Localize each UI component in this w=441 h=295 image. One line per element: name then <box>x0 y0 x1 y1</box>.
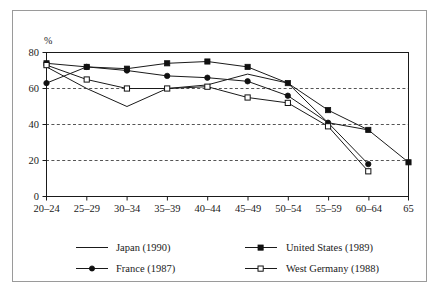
legend-entry-japan[interactable]: Japan (1990) <box>76 242 171 254</box>
data-point-west-germany-1988-3 <box>165 86 170 91</box>
legend-marker-open-square <box>258 266 263 271</box>
data-point-west-germany-1988-2 <box>124 86 129 91</box>
legend-label-west-germany: West Germany (1988) <box>286 263 380 275</box>
data-point-west-germany-1988-4 <box>205 84 210 89</box>
legend-label-united-states: United States (1989) <box>286 242 373 254</box>
data-point-united-states-1989-3 <box>165 61 170 66</box>
data-point-france-1987-4 <box>205 75 210 80</box>
data-point-west-germany-1988-8 <box>366 169 371 174</box>
legend-entry-france[interactable]: France (1987) <box>76 263 176 275</box>
data-point-united-states-1989-7 <box>325 108 330 113</box>
series-layer <box>44 59 411 174</box>
data-point-france-1987-5 <box>245 79 250 84</box>
y-axis-unit-label: % <box>44 35 52 46</box>
data-point-france-1987-0 <box>44 80 49 85</box>
y-tick-label-0: 0 <box>34 191 39 202</box>
legend-marker-filled-circle <box>89 266 94 271</box>
data-point-west-germany-1988-0 <box>44 63 49 68</box>
series-line-west-germany-1988 <box>47 65 369 171</box>
x-axis: 20–24 25–29 30–34 35–39 40–44 45–49 50–5… <box>33 197 413 215</box>
legend-entry-west-germany[interactable]: West Germany (1988) <box>245 263 380 275</box>
x-tick-label-6: 50–54 <box>275 203 302 214</box>
y-tick-label-20: 20 <box>29 155 40 166</box>
data-point-united-states-1989-9 <box>406 160 411 165</box>
legend-entry-united-states[interactable]: United States (1989) <box>245 242 373 254</box>
figure-container: % 80 60 40 20 0 20–24 25–29 30–34 35–39 … <box>0 0 441 295</box>
data-point-united-states-1989-5 <box>245 64 250 69</box>
data-point-west-germany-1988-5 <box>245 95 250 100</box>
legend-label-france: France (1987) <box>116 263 176 275</box>
data-point-united-states-1989-1 <box>84 64 89 69</box>
data-point-france-1987-6 <box>285 93 290 98</box>
data-point-united-states-1989-2 <box>124 66 129 71</box>
data-point-west-germany-1988-6 <box>285 100 290 105</box>
x-tick-label-5: 45–49 <box>235 203 261 214</box>
series-united-states-1989 <box>44 59 411 165</box>
y-tick-label-40: 40 <box>29 119 40 130</box>
data-point-united-states-1989-4 <box>205 59 210 64</box>
x-tick-label-8: 60–64 <box>356 203 383 214</box>
x-tick-label-9: 65 <box>403 203 414 214</box>
data-point-france-1987-3 <box>164 73 169 78</box>
legend-label-japan: Japan (1990) <box>116 242 171 254</box>
x-tick-label-4: 40–44 <box>195 203 222 214</box>
data-point-united-states-1989-6 <box>285 81 290 86</box>
y-axis: % 80 60 40 20 0 <box>29 35 53 202</box>
x-tick-label-1: 25–29 <box>74 203 100 214</box>
data-point-france-1987-8 <box>366 161 371 166</box>
series-line-united-states-1989 <box>47 62 409 163</box>
y-tick-label-80: 80 <box>29 47 40 58</box>
data-point-west-germany-1988-1 <box>84 77 89 82</box>
data-point-united-states-1989-8 <box>366 127 371 132</box>
legend-marker-filled-square <box>258 245 263 250</box>
legend: Japan (1990) France (1987) United States… <box>76 242 380 275</box>
y-tick-label-60: 60 <box>29 83 40 94</box>
x-tick-label-0: 20–24 <box>33 203 60 214</box>
series-france-1987 <box>44 64 371 167</box>
x-tick-label-2: 30–34 <box>114 203 141 214</box>
data-point-west-germany-1988-7 <box>325 124 330 129</box>
line-chart: % 80 60 40 20 0 20–24 25–29 30–34 35–39 … <box>0 0 441 295</box>
x-tick-label-7: 55–59 <box>315 203 341 214</box>
x-tick-label-3: 35–39 <box>154 203 180 214</box>
